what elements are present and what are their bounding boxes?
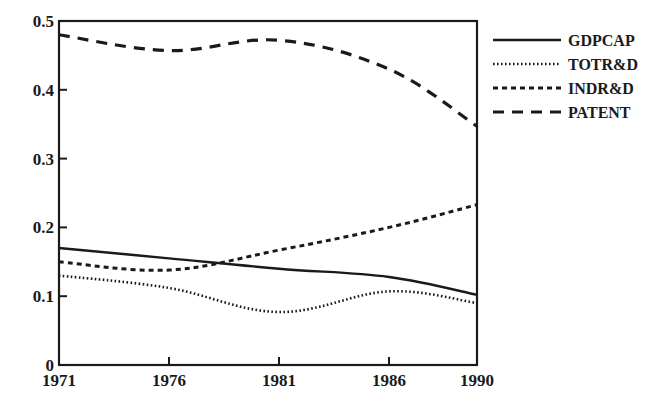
x-tick-label: 1981 [262,371,296,390]
x-tick-label: 1986 [372,371,406,390]
series-gdpcap [59,248,477,295]
plot-border [59,21,477,365]
legend-label: GDPCAP [568,32,635,49]
x-tick-label: 1971 [42,371,76,390]
legend-item: GDPCAP [493,32,635,49]
y-tick-label: 0.5 [33,12,54,31]
series-indr-d [59,205,477,271]
x-tick-label: 1990 [460,371,494,390]
legend-item: TOTR&D [493,56,638,73]
y-tick-label: 0.1 [33,287,54,306]
x-tick-label: 1976 [152,371,186,390]
line-chart: 00.10.20.30.40.5 19711976198119861990 GD… [0,0,664,415]
y-axis: 00.10.20.30.40.5 [33,12,67,375]
legend: GDPCAPTOTR&DINDR&DPATENT [493,32,638,121]
x-axis: 19711976198119861990 [42,357,494,390]
legend-item: INDR&D [493,80,634,97]
legend-item: PATENT [493,104,631,121]
y-tick-label: 0.4 [33,81,55,100]
series-lines [59,35,477,312]
y-tick-label: 0.3 [33,150,54,169]
plot-frame [59,21,477,365]
y-tick-label: 0.2 [33,218,54,237]
series-patent [59,35,477,127]
legend-label: TOTR&D [568,56,638,73]
legend-label: INDR&D [568,80,634,97]
legend-label: PATENT [568,104,631,121]
